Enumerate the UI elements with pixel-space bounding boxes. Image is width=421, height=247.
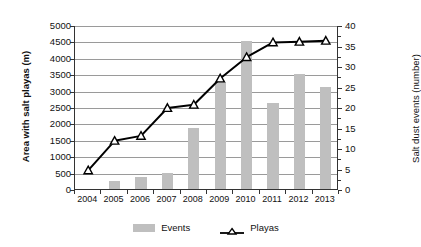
x-tick-mark: [74, 190, 75, 194]
x-tick-mark: [338, 190, 339, 194]
bar-swatch-icon: [133, 224, 155, 232]
right-axis-title: Salt dust events (number): [410, 24, 421, 194]
x-tick-mark: [232, 190, 233, 194]
x-tick-mark: [259, 190, 260, 194]
left-tick-label: 5000: [31, 21, 71, 31]
left-tick-label: 4500: [31, 37, 71, 47]
right-tick-label: 35: [345, 42, 375, 52]
right-tick-label: 40: [345, 21, 375, 31]
left-tick-label: 2500: [31, 103, 71, 113]
chart-legend: Events Playas: [0, 222, 412, 233]
x-tick-label: 2013: [305, 194, 345, 204]
line-marker-swatch-icon: [220, 223, 244, 233]
x-tick-mark: [153, 190, 154, 194]
x-tick-mark: [100, 190, 101, 194]
left-tick-label: 4000: [31, 54, 71, 64]
right-tick-label: 5: [345, 165, 375, 175]
left-tick-label: 1000: [31, 152, 71, 162]
left-tick-label: 2000: [31, 119, 71, 129]
x-tick-mark: [127, 190, 128, 194]
legend-label-events: Events: [161, 222, 190, 233]
legend-item-events: Events: [133, 222, 190, 233]
x-tick-mark: [312, 190, 313, 194]
right-tick-label: 25: [345, 83, 375, 93]
left-tick-label: 500: [31, 169, 71, 179]
playas-marker-triangle-icon: [242, 53, 250, 61]
line-series-playas: [75, 26, 339, 190]
left-tick-label: 0: [31, 185, 71, 195]
playas-line-path: [88, 41, 326, 171]
left-tick-label: 1500: [31, 136, 71, 146]
left-tick-label: 3500: [31, 70, 71, 80]
x-tick-mark: [180, 190, 181, 194]
right-tick-label: 30: [345, 62, 375, 72]
left-tick-label: 3000: [31, 87, 71, 97]
legend-label-playas: Playas: [250, 222, 279, 233]
x-tick-mark: [206, 190, 207, 194]
plot-area: [74, 26, 338, 190]
x-tick-mark: [285, 190, 286, 194]
right-tick-label: 0: [345, 185, 375, 195]
right-tick-label: 15: [345, 124, 375, 134]
legend-item-playas: Playas: [220, 222, 279, 233]
left-axis-title: Area with salt playas (m): [20, 27, 31, 187]
right-tick-label: 10: [345, 144, 375, 154]
right-tick-label: 20: [345, 103, 375, 113]
